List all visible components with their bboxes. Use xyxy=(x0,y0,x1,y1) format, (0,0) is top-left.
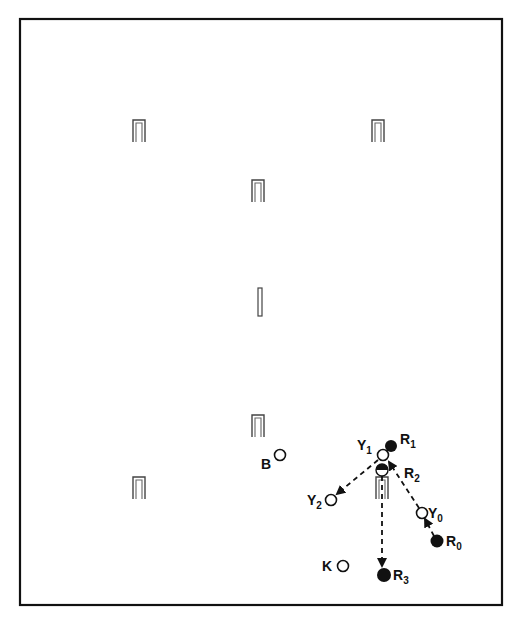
label-r2: R2 xyxy=(404,465,420,484)
label-r3: R3 xyxy=(393,567,409,586)
label-b: B xyxy=(261,456,271,472)
label-y2: Y2 xyxy=(307,492,322,511)
label-r1: R1 xyxy=(400,431,416,450)
hoop-icon xyxy=(372,120,384,142)
arrow-y1-to-y2 xyxy=(337,460,378,494)
ball-y1 xyxy=(378,450,389,461)
ball-r0 xyxy=(431,535,444,548)
ball-r2 xyxy=(376,464,388,476)
croquet-diagram: B K Y1 R1 R2 Y2 Y0 R0 R3 xyxy=(0,0,516,619)
ball-b xyxy=(275,450,286,461)
arrow-r0-to-y0 xyxy=(425,519,434,536)
hoop-icon xyxy=(252,180,264,202)
ball-k xyxy=(338,561,349,572)
label-r0: R0 xyxy=(446,533,462,552)
hoop-icon xyxy=(133,477,145,499)
ball-y2 xyxy=(326,495,337,506)
label-k: K xyxy=(322,558,332,574)
ball-y0 xyxy=(417,508,428,519)
ball-r3 xyxy=(377,568,391,582)
hoop-icon xyxy=(133,120,145,142)
label-y0: Y0 xyxy=(428,505,443,524)
hoop-icon xyxy=(252,415,264,437)
peg-icon xyxy=(258,288,262,316)
label-y1: Y1 xyxy=(357,437,372,456)
